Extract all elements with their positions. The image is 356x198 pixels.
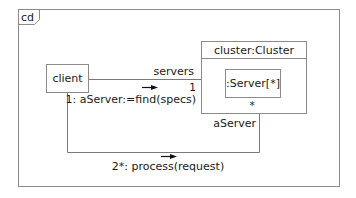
node-cluster-label: cluster:Cluster [214,44,294,57]
node-client[interactable]: client [47,65,89,93]
node-client-label: client [52,72,83,85]
communication-diagram: cd client cluster:Cluster :Server[*] ser… [0,0,356,198]
multiplicity-star-label: * [249,99,254,111]
node-server[interactable]: :Server[*] [226,70,281,98]
message-2-label: 2*: process(request) [112,160,224,173]
message-1-arrow-icon [142,85,158,90]
message-2-arrow-icon [161,154,177,159]
role-aserver-label: aServer [213,117,256,130]
role-servers-label: servers [153,65,194,78]
node-server-label: :Server[*] [226,77,280,90]
message-1-label: 1: aServer:=find(specs) [66,93,196,106]
frame-tag-label: cd [21,11,34,24]
multiplicity-1-label: 1 [189,81,196,93]
